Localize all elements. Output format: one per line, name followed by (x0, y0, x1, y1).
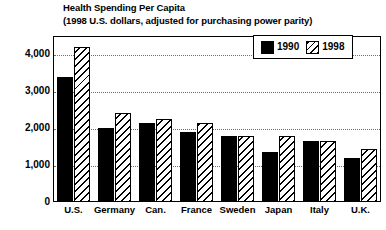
bar-group (98, 36, 131, 202)
y-tick-label: 4,000 (2, 49, 50, 59)
x-axis: U.S.GermanyCan.FranceSwedenJapanItalyU.K… (53, 204, 381, 224)
bar-group (139, 36, 172, 202)
bar-1998 (238, 136, 254, 202)
y-tick-label: 2,000 (2, 123, 50, 133)
bar-group (262, 36, 295, 202)
bar-1990 (57, 77, 73, 202)
x-tick-label: Japan (265, 204, 292, 216)
bar-1998 (279, 136, 295, 202)
bar-1990 (303, 141, 319, 202)
bar-1990 (262, 152, 278, 202)
x-tick-label: U.S. (64, 204, 82, 216)
x-tick-label: Sweden (220, 204, 256, 216)
bar-1990 (139, 123, 155, 202)
y-tick-label: 3,000 (2, 86, 50, 96)
bar-1998 (320, 141, 336, 202)
x-tick-label: U.K. (351, 204, 370, 216)
y-tick-label: 0 (2, 197, 50, 207)
y-axis: 01,0002,0003,0004,000 (0, 36, 50, 202)
bar-group (180, 36, 213, 202)
legend-entry: 1998 (306, 41, 344, 54)
bar-1998 (361, 149, 377, 202)
x-tick-label: France (181, 204, 212, 216)
bar-group (57, 36, 90, 202)
bar-1990 (221, 136, 237, 202)
y-tick-label: 1,000 (2, 160, 50, 170)
chart-legend: 19901998 (253, 35, 353, 59)
bar-group (221, 36, 254, 202)
chart-container: Health Spending Per Capita (1998 U.S. do… (0, 0, 386, 230)
bar-1998 (197, 123, 213, 202)
legend-label: 1998 (322, 42, 344, 52)
x-tick-label: Can. (145, 204, 166, 216)
chart-subtitle: (1998 U.S. dollars, adjusted for purchas… (63, 15, 383, 28)
legend-swatch-1998 (306, 41, 319, 54)
x-tick-label: Italy (310, 204, 329, 216)
bar-1998 (115, 113, 131, 202)
bar-group (344, 36, 377, 202)
bar-1990 (180, 132, 196, 202)
chart-title-block: Health Spending Per Capita (1998 U.S. do… (63, 2, 383, 27)
legend-entry: 1990 (261, 41, 299, 54)
bar-group (303, 36, 336, 202)
bar-1990 (98, 128, 114, 202)
legend-label: 1990 (277, 42, 299, 52)
chart-title: Health Spending Per Capita (63, 2, 383, 15)
bar-1990 (344, 158, 360, 202)
bar-1998 (74, 47, 90, 202)
bars-layer (53, 36, 381, 202)
legend-swatch-1990 (261, 41, 274, 54)
bar-1998 (156, 119, 172, 202)
x-tick-label: Germany (94, 204, 135, 216)
